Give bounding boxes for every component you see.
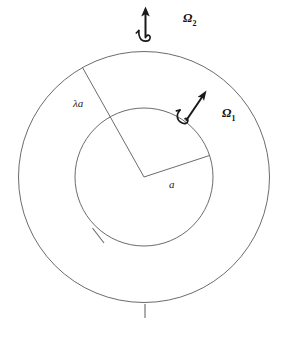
- inner-radius-line: [144, 156, 210, 178]
- omega-inner-symbol: Ω: [222, 106, 232, 120]
- diagram-canvas: Ω 2 Ω 1 λa a: [0, 0, 285, 342]
- outer-radius-label: λa: [72, 97, 84, 109]
- omega-inner-subscript: 1: [232, 114, 236, 123]
- outer-radius-line: [83, 68, 145, 178]
- angular-velocity-vector-outer-icon: [136, 7, 150, 42]
- inner-radius-label: a: [169, 178, 175, 190]
- omega-outer-subscript: 2: [193, 19, 197, 28]
- inner-circle-tick-icon: [93, 228, 105, 243]
- figure-container: Ω 2 Ω 1 λa a: [0, 0, 285, 342]
- omega-outer-symbol: Ω: [183, 11, 193, 25]
